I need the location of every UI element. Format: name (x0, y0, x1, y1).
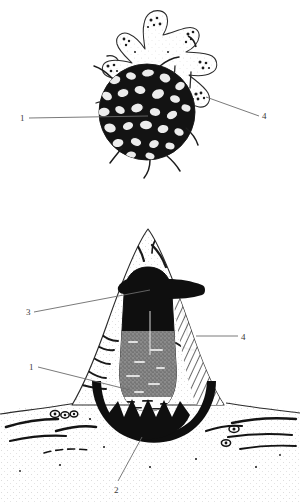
star-cell-drawing (0, 0, 300, 215)
label-1-bottom: 1 (29, 363, 34, 372)
label-2-bottom: 2 (114, 486, 119, 495)
label-1-top: 1 (20, 114, 25, 123)
cap-left-shoulder (118, 279, 130, 294)
label-3-bottom: 3 (26, 308, 31, 317)
villus-section-drawing (0, 215, 300, 504)
panel-star-cell: 1 4 (0, 0, 300, 215)
leader-line-4 (206, 97, 259, 116)
cap-right-bar (168, 279, 205, 299)
label-4-bottom: 4 (241, 333, 246, 342)
panel-villus-section: 3 1 4 2 (0, 215, 300, 504)
figure-root: 1 4 (0, 0, 300, 504)
label-4-top: 4 (262, 112, 267, 121)
